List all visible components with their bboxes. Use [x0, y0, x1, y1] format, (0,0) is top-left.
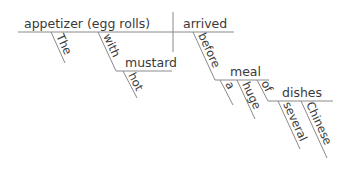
object-mustard: mustard	[125, 55, 177, 70]
object-dishes: dishes	[282, 85, 322, 100]
object-meal: meal	[230, 64, 261, 79]
subject-word: appetizer (egg rolls)	[24, 16, 150, 31]
modifier-chinese: Chinese	[303, 99, 335, 147]
verb-word: arrived	[183, 16, 227, 31]
sentence-diagram: appetizer (egg rolls) arrived The with m…	[0, 0, 354, 170]
modifier-a: a	[222, 79, 238, 92]
modifier-hot: hot	[125, 70, 146, 94]
preposition-before: before	[195, 30, 223, 69]
